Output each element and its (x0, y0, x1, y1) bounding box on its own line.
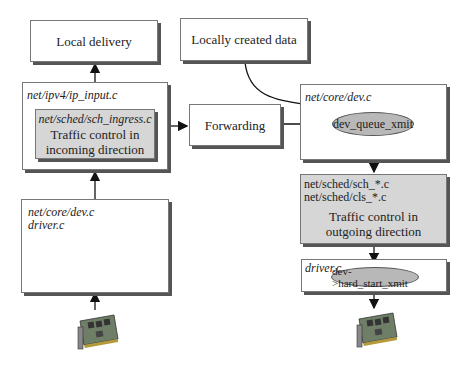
driver-left-label: driver.c (28, 219, 64, 232)
ip-input-box: net/ipv4/ip_input.c net/sched/sch_ingres… (22, 82, 168, 170)
ip-input-label: net/ipv4/ip_input.c (27, 89, 117, 102)
network-card-icon (355, 311, 401, 355)
locally-created-box: Locally created data (180, 18, 308, 61)
egress-tc-text: Traffic control in outgoing direction (301, 209, 446, 239)
egress-tc-box: net/sched/sch_*.c net/sched/cls_*.c Traf… (300, 174, 447, 244)
forwarding-label: Forwarding (205, 118, 266, 133)
network-card-icon (76, 313, 122, 357)
dev-queue-xmit-node: dev_queue_xmit (332, 112, 414, 136)
core-dev-left-box: net/core/dev.c driver.c (21, 199, 169, 293)
egress-tc-line1: Traffic control in (329, 209, 418, 224)
sch-ingress-label: net/sched/sch_ingress.c (38, 112, 151, 127)
ingress-tc-line1: Traffic control in (51, 127, 140, 142)
local-delivery-label: Local delivery (56, 34, 131, 49)
core-dev-right-label: net/core/dev.c (305, 91, 371, 104)
egress-tc-line2: outgoing direction (326, 224, 422, 239)
hard-start-xmit-label: dev->hard_start_xmit (332, 265, 418, 289)
forwarding-box: Forwarding (189, 104, 281, 146)
local-delivery-box: Local delivery (30, 20, 158, 62)
ingress-tc-box: net/sched/sch_ingress.c Traffic control … (35, 109, 155, 159)
ingress-tc-line2: incoming direction (46, 142, 145, 157)
dev-queue-xmit-label: dev_queue_xmit (333, 117, 413, 132)
hard-start-xmit-node: dev->hard_start_xmit (331, 267, 419, 287)
locally-created-label: Locally created data (191, 32, 296, 47)
cls-files-label: net/sched/cls_*.c (304, 191, 386, 204)
